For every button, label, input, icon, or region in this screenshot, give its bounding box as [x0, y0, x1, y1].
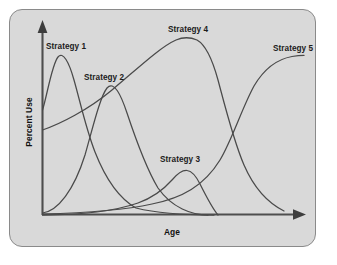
series-label-strategy-2: Strategy 2 [84, 73, 124, 82]
y-axis-title: Percent Use [24, 97, 34, 147]
series-label-strategy-5: Strategy 5 [273, 44, 313, 53]
y-axis-arrowhead [38, 20, 48, 33]
chart-curves [43, 38, 305, 215]
x-axis-title: Age [164, 227, 180, 237]
series-label-strategy-1: Strategy 1 [46, 42, 86, 51]
series-label-strategy-3: Strategy 3 [160, 155, 200, 164]
series-label-strategy-4: Strategy 4 [168, 25, 208, 34]
chart-series-labels: Strategy 1 Strategy 2 Strategy 3 Strateg… [46, 25, 313, 164]
strategy-use-line-chart: Strategy 1 Strategy 2 Strategy 3 Strateg… [0, 0, 337, 265]
curve-strategy-5 [43, 55, 305, 214]
x-axis-arrowhead [293, 209, 306, 219]
curve-strategy-4 [43, 38, 285, 211]
curve-strategy-2 [43, 86, 209, 215]
